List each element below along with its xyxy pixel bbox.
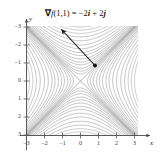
x-axis-label: x [150,139,153,147]
j-unit-vector: j [103,8,105,18]
x-tick-label: −2 [35,140,55,147]
x-tick-label: 3 [125,140,145,147]
x-tick-label: 0 [71,140,91,147]
gradient-args: (1,1) [53,8,69,18]
y-tick-label: 3 [8,131,21,138]
y-tick-label: −2 [8,41,21,48]
y-tick-label: 0 [8,77,21,84]
y-axis-label: y [29,15,32,23]
x-tick-label: 2 [107,140,127,147]
gradient-annotation-label: ∇f(1,1) = −2i + 2j [45,8,106,18]
i-coefficient: −2 [79,8,88,18]
plot-background [0,0,165,163]
equals-sign: = [70,8,79,18]
y-tick-label: 1 [8,95,21,102]
y-tick-label: −1 [8,59,21,66]
y-tick-label: −3 [8,23,21,30]
contour-plot-figure: ∇f(1,1) = −2i + 2j −3−2−10123 3210−1−2−3… [0,0,165,163]
x-tick-label: 1 [89,140,109,147]
x-tick-label: −1 [53,140,73,147]
plus-sign: + [90,8,99,18]
y-tick-label: 2 [8,113,21,120]
gradient-base-point-dot [93,64,97,68]
x-tick-label: −3 [17,140,37,147]
contour-plot-canvas [0,0,165,163]
